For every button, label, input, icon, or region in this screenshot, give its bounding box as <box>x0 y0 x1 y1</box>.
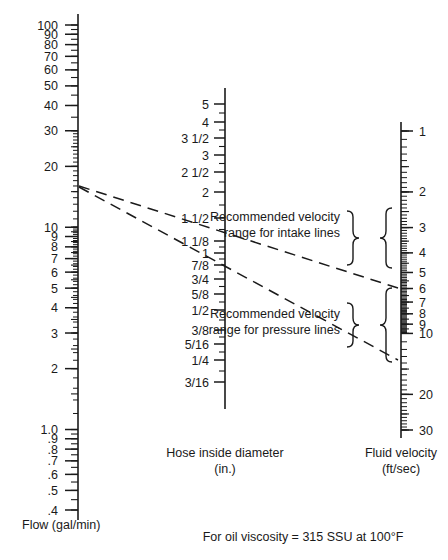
flow-label-.4: .4 <box>48 504 58 518</box>
velocity-label-2: 2 <box>419 185 426 199</box>
diameter-tick-marks <box>214 104 225 382</box>
diameter-label-5-8: 5/8 <box>192 288 209 302</box>
velocity-label-10: 10 <box>419 327 433 341</box>
nomograph-figure: 100908070605040302010987654321.0.9.8.7.6… <box>0 0 448 560</box>
velocity-label-6: 6 <box>419 282 426 296</box>
flow-tick-labels: 100908070605040302010987654321.0.9.8.7.6… <box>37 19 58 518</box>
diameter-label-3-1-2: 3 1/2 <box>181 132 209 146</box>
intake-range-annotation: Recommended velocity range for intake li… <box>210 208 392 268</box>
diameter-label-1-2: 1/2 <box>192 304 209 318</box>
velocity-label-4: 4 <box>419 246 426 260</box>
flow-tick-marks <box>65 25 78 510</box>
pressure-range-annotation: Recommended velocity range for pressure … <box>209 288 392 362</box>
pressure-annotation-line2: range for pressure lines <box>209 323 340 337</box>
diameter-scale: 543 1/232 1/221 1/21 1/817/83/45/81/23/8… <box>181 88 225 409</box>
flow-label-5: 5 <box>51 282 58 296</box>
diameter-label-2-1-2: 2 1/2 <box>181 166 209 180</box>
diameter-label-5-16: 5/16 <box>185 338 209 352</box>
flow-label-7: 7 <box>51 252 58 266</box>
diameter-label-3-4: 3/4 <box>192 273 209 287</box>
velocity-tick-marks <box>401 131 413 430</box>
flow-label-.6: .6 <box>48 468 58 482</box>
diameter-label-1-1-2: 1 1/2 <box>181 212 209 226</box>
diameter-tick-labels: 543 1/232 1/221 1/21 1/817/83/45/81/23/8… <box>181 98 209 390</box>
diameter-label-2: 2 <box>202 186 209 200</box>
diameter-label-4: 4 <box>202 116 209 130</box>
velocity-label-20: 20 <box>419 388 433 402</box>
intake-annotation-line1: Recommended velocity <box>210 210 341 224</box>
velocity-axis-caption-line1: Fluid velocity <box>365 446 438 460</box>
intake-annotation-brace <box>347 211 359 265</box>
diameter-label-1-4: 1/4 <box>192 354 209 368</box>
flow-label-.7: .7 <box>48 454 58 468</box>
flow-label-3: 3 <box>51 327 58 341</box>
diameter-label-7-8: 7/8 <box>192 259 209 273</box>
diameter-label-3-8: 3/8 <box>192 324 209 338</box>
flow-label-40: 40 <box>44 99 58 113</box>
flow-label-70: 70 <box>44 50 58 64</box>
flow-label-60: 60 <box>44 63 58 77</box>
flow-label-20: 20 <box>44 160 58 174</box>
velocity-scale: 123456789102030 <box>401 122 433 438</box>
flow-label-30: 30 <box>44 124 58 138</box>
intake-range-brace <box>380 208 392 268</box>
diameter-axis-caption-line1: Hose inside diameter <box>166 446 283 460</box>
pressure-annotation-line1: Recommended velocity <box>210 307 341 321</box>
velocity-axis-caption-line2: (ft/sec) <box>382 462 420 476</box>
diameter-label-3-16: 3/16 <box>185 376 209 390</box>
diameter-label-5: 5 <box>202 98 209 112</box>
diameter-axis-caption-line2: (in.) <box>214 462 236 476</box>
velocity-tick-labels: 123456789102030 <box>419 125 433 438</box>
viscosity-footnote: For oil viscosity = 315 SSU at 100°F <box>203 530 404 544</box>
velocity-label-5: 5 <box>419 266 426 280</box>
flow-axis-caption: Flow (gal/min) <box>22 518 101 532</box>
flow-label-4: 4 <box>51 301 58 315</box>
diameter-label-3: 3 <box>202 149 209 163</box>
flow-label-6: 6 <box>51 266 58 280</box>
flow-scale: 100908070605040302010987654321.0.9.8.7.6… <box>37 14 78 520</box>
velocity-label-30: 30 <box>419 424 433 438</box>
pressure-annotation-brace <box>347 303 359 347</box>
flow-label-50: 50 <box>44 79 58 93</box>
velocity-label-3: 3 <box>419 221 426 235</box>
intake-annotation-line2: range for intake lines <box>224 226 340 240</box>
flow-label-.5: .5 <box>48 484 58 498</box>
flow-label-2: 2 <box>51 362 58 376</box>
velocity-label-1: 1 <box>419 125 426 139</box>
